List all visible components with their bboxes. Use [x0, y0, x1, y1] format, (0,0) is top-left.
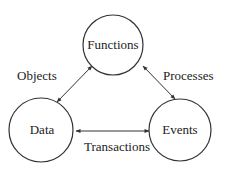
node-data-label: Data [30, 122, 55, 137]
node-data: Data [9, 98, 73, 162]
node-events: Events [149, 99, 211, 161]
node-functions: Functions [83, 15, 143, 75]
edge-label-processes: Processes [163, 68, 214, 83]
edge-label-objects: Objects [17, 68, 57, 83]
triangle-relationship-diagram: Functions Data Events Objects Processes … [0, 0, 228, 175]
edge-label-transactions: Transactions [84, 139, 150, 154]
node-events-label: Events [162, 122, 197, 137]
edge-objects [57, 66, 92, 102]
node-functions-label: Functions [87, 37, 138, 52]
